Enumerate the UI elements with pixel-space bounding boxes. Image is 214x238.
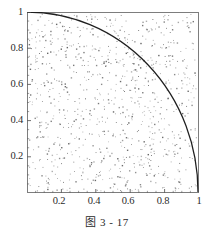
y-tick-label-0.8: 0.8 [0,43,23,54]
plot-area [27,12,199,193]
x-tick-label-1: 1 [188,196,210,207]
x-tick-label-0.6: 0.6 [116,196,140,207]
x-tick-label-0.4: 0.4 [82,196,106,207]
figure-container: 1 0.8 0.6 0.4 0.2 0.2 0.4 0.6 0.8 1 图 3 … [0,0,214,238]
x-tick-label-0.2: 0.2 [47,196,71,207]
y-tick-label-0.4: 0.4 [0,115,23,126]
plot-frame [28,13,199,193]
y-tick-label-0.2: 0.2 [0,151,23,162]
y-tick-label-0.6: 0.6 [0,79,23,90]
figure-caption: 图 3 - 17 [0,213,214,229]
x-tick-label-0.8: 0.8 [151,196,175,207]
y-tick-label-1: 1 [0,7,23,18]
scatter-plot-svg [27,12,199,193]
